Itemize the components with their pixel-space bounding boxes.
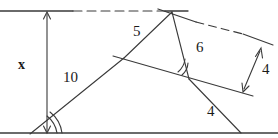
label-side-10: 10 <box>63 70 78 85</box>
label-side-4-right: 4 <box>262 62 270 77</box>
upper-right-solid-end <box>243 34 273 45</box>
segment-5 <box>124 12 172 58</box>
segment-4-lower <box>189 79 241 133</box>
label-side-5: 5 <box>133 24 141 39</box>
transversal-line <box>113 56 253 96</box>
label-side-4-lower: 4 <box>207 104 215 119</box>
right-arrow-shaft <box>244 51 260 89</box>
figure-canvas <box>0 0 278 138</box>
label-side-6: 6 <box>196 40 204 55</box>
upper-right-dashed <box>196 22 243 34</box>
geometry-figure: x 5 10 6 4 4 <box>0 0 278 138</box>
label-height-x: x <box>18 58 25 72</box>
